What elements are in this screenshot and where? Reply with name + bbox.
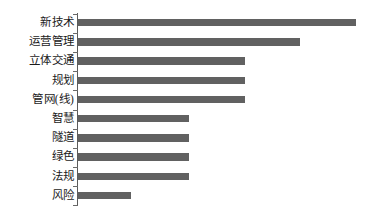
bar bbox=[78, 134, 189, 141]
bar-rows: 新技术 运营管理 立体交通 规划 管网(线) 智慧 bbox=[0, 0, 374, 217]
category-label: 隧道 bbox=[52, 128, 74, 147]
bar-row: 隧道 bbox=[0, 128, 374, 147]
axis-tick bbox=[73, 14, 78, 15]
bar-row: 立体交通 bbox=[0, 51, 374, 70]
bar bbox=[78, 153, 189, 160]
bar bbox=[78, 115, 189, 122]
axis-tick bbox=[73, 186, 78, 187]
bar-row: 运营管理 bbox=[0, 32, 374, 51]
bar bbox=[78, 192, 131, 199]
category-label: 风险 bbox=[52, 186, 74, 205]
axis-tick bbox=[73, 33, 78, 34]
bar bbox=[78, 19, 356, 26]
bar-row: 绿色 bbox=[0, 147, 374, 166]
axis-tick bbox=[73, 71, 78, 72]
bar bbox=[78, 173, 189, 180]
bar bbox=[78, 38, 300, 45]
axis-tick bbox=[73, 52, 78, 53]
bar bbox=[78, 96, 245, 103]
bar bbox=[78, 57, 245, 64]
axis-tick bbox=[73, 110, 78, 111]
axis-tick bbox=[73, 148, 78, 149]
category-label: 法规 bbox=[52, 167, 74, 186]
category-label: 运营管理 bbox=[29, 32, 74, 51]
bar-chart: 新技术 运营管理 立体交通 规划 管网(线) 智慧 bbox=[0, 0, 374, 217]
category-label: 新技术 bbox=[40, 13, 74, 32]
bar bbox=[78, 77, 245, 84]
bar-row: 智慧 bbox=[0, 109, 374, 128]
category-label: 立体交通 bbox=[29, 51, 74, 70]
bar-row: 规划 bbox=[0, 71, 374, 90]
plot-area: 新技术 运营管理 立体交通 规划 管网(线) 智慧 bbox=[0, 0, 374, 217]
bar-row: 管网(线) bbox=[0, 90, 374, 109]
category-label: 绿色 bbox=[52, 147, 74, 166]
category-label: 管网(线) bbox=[32, 90, 74, 109]
bar-row: 法规 bbox=[0, 167, 374, 186]
axis-tick bbox=[73, 90, 78, 91]
category-label: 规划 bbox=[52, 71, 74, 90]
axis-tick bbox=[73, 167, 78, 168]
bar-row: 风险 bbox=[0, 186, 374, 205]
axis-tick bbox=[73, 205, 78, 206]
category-label: 智慧 bbox=[52, 109, 74, 128]
bar-row: 新技术 bbox=[0, 13, 374, 32]
axis-tick bbox=[73, 129, 78, 130]
